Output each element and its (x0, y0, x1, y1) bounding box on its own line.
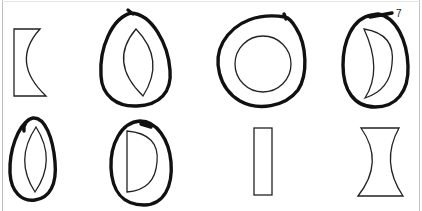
circle-lens-outline (235, 36, 291, 92)
shape-plano-convex-lens (111, 121, 171, 205)
shape-biconcave-lens (358, 128, 403, 196)
hand-drawn-circle (101, 10, 170, 106)
annotation-label: 7 (396, 8, 402, 19)
shape-meniscus-lens: 7 (343, 8, 408, 107)
figure-frame: 7 (0, 0, 422, 211)
shape-circle-lens (218, 14, 305, 106)
shape-rectangular-slab (254, 128, 272, 195)
shape-biconvex-lens-narrow (10, 118, 55, 200)
plano-concave-outline (14, 29, 46, 96)
biconvex-lens-outline (124, 29, 153, 96)
biconcave-lens-outline (358, 128, 403, 196)
plano-convex-lens-outline (127, 131, 157, 192)
rectangular-slab-outline (254, 128, 272, 195)
meniscus-lens-outline (364, 29, 392, 98)
shape-plano-concave-lens (14, 29, 46, 96)
shape-biconvex-lens (101, 10, 170, 106)
lens-diagram: 7 (0, 0, 422, 211)
biconvex-lens-outline (25, 127, 47, 192)
